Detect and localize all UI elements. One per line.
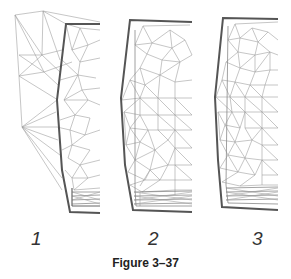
- panel-1-boundary: [57, 24, 100, 213]
- panel-1-label: 1: [31, 228, 42, 250]
- figure-caption: Figure 3–37: [0, 256, 291, 270]
- panel-3-mesh: [216, 22, 278, 200]
- panel-3-label: 3: [252, 228, 263, 250]
- panel-2-label: 2: [148, 228, 159, 250]
- panel-2-boundary: [121, 20, 192, 212]
- panel-2-mesh: [122, 25, 192, 206]
- mesh-figure: [0, 0, 291, 279]
